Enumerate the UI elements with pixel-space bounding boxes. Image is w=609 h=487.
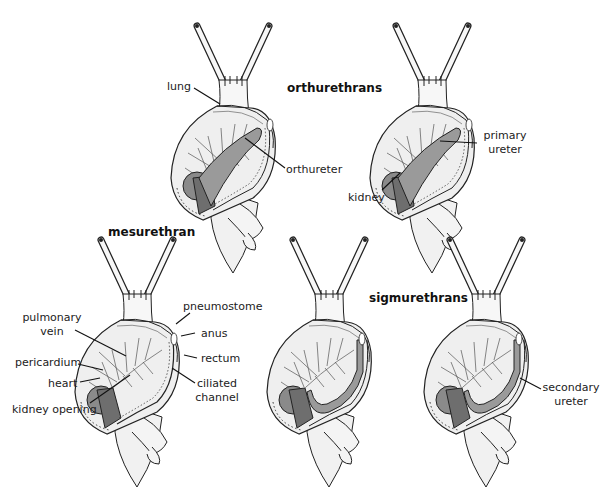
label-secondary-ureter-line2: ureter — [540, 395, 602, 408]
label-kidney: kidney — [348, 191, 385, 204]
label-primary-ureter-line2: ureter — [480, 143, 530, 156]
label-rectum: rectum — [201, 352, 240, 365]
label-pericardium: pericardium — [15, 356, 81, 369]
snail-sigmurethran-2 — [424, 238, 528, 487]
label-primary-ureter-line1: primary — [480, 129, 530, 142]
group-title-orthurethrans: orthurethrans — [287, 81, 382, 95]
snail-orthurethran-2 — [370, 24, 474, 273]
label-heart: heart — [48, 377, 77, 390]
label-secondary-ureter-line1: secondary — [540, 381, 602, 394]
snail-mesurethran — [75, 238, 179, 487]
label-pneumostome: pneumostome — [183, 300, 262, 313]
label-orthureter: orthureter — [286, 163, 342, 176]
snail-sigmurethran-1 — [267, 238, 371, 487]
label-pulmonary-vein-line2: vein — [22, 325, 82, 338]
label-ciliated-channel-line1: ciliated — [192, 377, 242, 390]
label-anus: anus — [201, 327, 227, 340]
group-title-sigmurethrans: sigmurethrans — [369, 291, 468, 305]
label-kidney-opening: kidney opening — [12, 403, 97, 416]
group-title-mesurethran: mesurethran — [108, 225, 195, 239]
label-ciliated-channel-line2: channel — [192, 391, 242, 404]
label-pulmonary-vein-line1: pulmonary — [22, 311, 82, 324]
label-lung: lung — [167, 80, 191, 93]
snail-excretory-diagram: orthurethrans mesurethran sigmurethrans … — [0, 0, 609, 487]
